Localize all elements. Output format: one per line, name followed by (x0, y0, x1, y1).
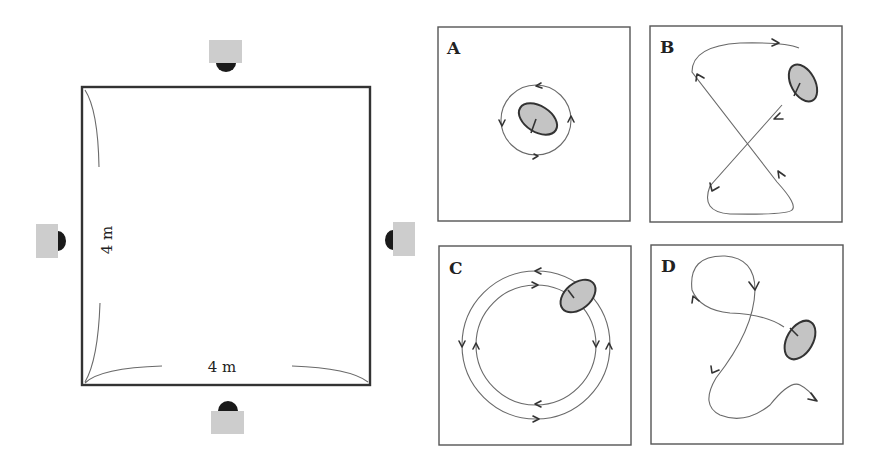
corner-arc (85, 90, 99, 167)
room-floorplan: 4 m 4 m (36, 40, 415, 434)
panel-b: B (650, 26, 842, 222)
camera-right-icon (385, 222, 415, 256)
room-height-label: 4 m (98, 226, 116, 255)
room-width-label: 4 m (208, 358, 237, 376)
corner-arc (292, 366, 368, 382)
panel-c: C (439, 246, 631, 445)
panel-d: D (651, 245, 843, 444)
corner-arc (85, 366, 162, 383)
panel-a-letter: A (446, 38, 461, 58)
panel-d-letter: D (661, 256, 676, 276)
camera-left-icon (36, 224, 66, 258)
panel-a: A (438, 27, 630, 221)
room-outline (82, 87, 370, 385)
corner-arc (85, 303, 100, 382)
diagram-canvas: 4 m 4 m A B (0, 0, 878, 468)
panel-b-letter: B (660, 37, 674, 57)
camera-bottom-icon (211, 401, 244, 434)
camera-top-icon (209, 40, 242, 72)
panel-c-letter: C (449, 258, 463, 278)
